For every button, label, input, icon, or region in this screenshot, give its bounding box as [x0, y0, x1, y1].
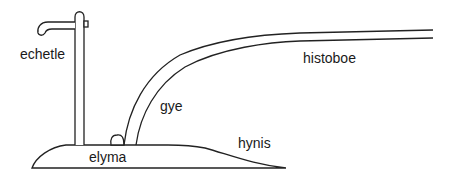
- label-elyma: elyma: [89, 150, 126, 164]
- label-histoboe: histoboe: [303, 51, 356, 65]
- label-gye: gye: [160, 99, 183, 113]
- echetle-spout: [38, 22, 75, 35]
- echetle-tab: [84, 21, 88, 27]
- gye-knob: [111, 135, 124, 145]
- gye-tube-outer: [124, 30, 433, 145]
- diagram-canvas: echetle histoboe gye elyma hynis: [0, 0, 457, 181]
- diagram-drawing: [0, 0, 457, 181]
- label-echetle: echetle: [20, 47, 65, 61]
- label-hynis: hynis: [238, 136, 271, 150]
- gye-tube-inner: [136, 38, 433, 145]
- echetle-post: [75, 12, 84, 145]
